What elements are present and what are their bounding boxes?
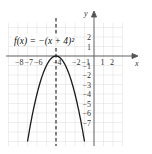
y-tick-label: −3 bbox=[82, 81, 91, 90]
x-axis-arrow-icon bbox=[132, 54, 138, 59]
y-tick-label: −6 bbox=[82, 109, 91, 118]
x-tick-label: −6 bbox=[34, 58, 43, 67]
y-tick-label: −1 bbox=[82, 62, 91, 71]
y-tick-label: −2 bbox=[82, 71, 91, 80]
y-tick-label: −4 bbox=[82, 90, 91, 99]
y-tick-labels: 21−1−2−3−4−5−6−7 bbox=[82, 33, 91, 128]
x-axis-label: x bbox=[134, 59, 139, 68]
y-axis-label: y bbox=[83, 9, 88, 18]
y-axis-arrow-icon bbox=[92, 11, 97, 17]
y-tick-label: −5 bbox=[82, 100, 91, 109]
y-tick-label: 1 bbox=[87, 43, 91, 52]
x-tick-label: 2 bbox=[110, 58, 114, 67]
parabola-chart: x y −8−7−6−4−2−112 21−1−2−3−4−5−6−7 f(x)… bbox=[0, 0, 152, 154]
x-tick-label: −8 bbox=[15, 58, 24, 67]
y-tick-label: −7 bbox=[82, 119, 91, 128]
equation-label: f(x) = −(x + 4)² bbox=[14, 36, 74, 47]
x-tick-label: 1 bbox=[101, 58, 105, 67]
axes bbox=[6, 11, 138, 146]
y-tick-label: 2 bbox=[87, 33, 91, 42]
x-tick-label: −2 bbox=[72, 58, 81, 67]
x-tick-label: −7 bbox=[25, 58, 34, 67]
x-tick-label: −4 bbox=[53, 58, 62, 67]
